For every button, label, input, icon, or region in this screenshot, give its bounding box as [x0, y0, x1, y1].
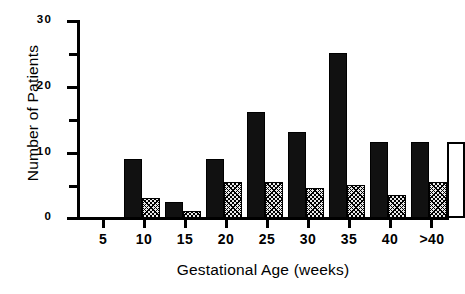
x-tick-10: [143, 220, 146, 228]
y-axis-line: [77, 20, 80, 220]
bar-solid-black-30: [288, 132, 306, 218]
x-tick-40: [389, 220, 392, 228]
bar-hatched-over40: [429, 182, 447, 218]
bar-solid-black-15: [165, 202, 183, 219]
bar-hatched-35: [347, 185, 365, 218]
bar-hatched-10: [142, 198, 160, 218]
y-tick-5: [69, 185, 77, 188]
x-axis-title: Gestational Age (weeks): [77, 261, 449, 279]
x-tick-25: [266, 220, 269, 228]
bar-solid-black-40: [370, 142, 388, 218]
x-tick-label-over40: >40: [402, 231, 462, 247]
bar-solid-black-35: [329, 53, 347, 218]
bar-solid-black-25: [247, 112, 265, 218]
bar-hatched-30: [306, 188, 324, 218]
x-tick-20: [225, 220, 228, 228]
y-tick-10: [67, 152, 77, 155]
bar-hatched-25: [265, 182, 283, 218]
y-tick-labels: 30 20 10 0: [0, 0, 64, 294]
x-tick-15: [184, 220, 187, 228]
bar-hatched-40: [388, 195, 406, 218]
y-tick-15: [69, 119, 77, 122]
y-tick-30: [67, 20, 77, 23]
bar-solid-black-20: [206, 159, 224, 218]
x-tick-30: [307, 220, 310, 228]
y-tick-label-30: 30: [0, 14, 52, 26]
x-tick-35: [348, 220, 351, 228]
x-axis-line: [77, 217, 449, 220]
bar-solid-black-over40: [411, 142, 429, 218]
y-tick-25: [69, 53, 77, 56]
y-tick-label-20: 20: [0, 80, 52, 92]
bar-solid-black-10: [124, 159, 142, 218]
x-tick-5: [102, 220, 105, 228]
bar-hatched-20: [224, 182, 242, 218]
bar-open-white-over40: [447, 142, 465, 218]
y-tick-20: [67, 86, 77, 89]
y-tick-0: [67, 217, 77, 220]
y-tick-label-10: 10: [0, 146, 52, 158]
y-tick-label-0: 0: [0, 211, 52, 223]
x-tick-over40: [430, 220, 433, 228]
